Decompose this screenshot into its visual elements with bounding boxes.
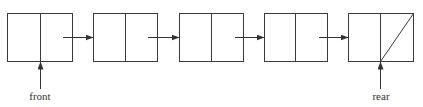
- list-node-1: [8, 14, 73, 62]
- rear-label: rear: [372, 90, 389, 102]
- list-node-5: [349, 14, 414, 62]
- list-node-2: [94, 14, 158, 62]
- linked-queue-diagram: front rear: [0, 0, 423, 107]
- front-label: front: [29, 90, 50, 102]
- null-pointer-slash-icon: [381, 14, 414, 62]
- list-node-3: [180, 14, 244, 62]
- list-node-4: [265, 14, 328, 62]
